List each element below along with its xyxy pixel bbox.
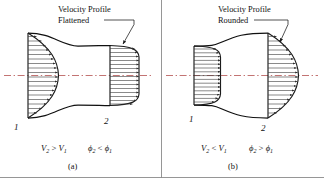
caption-b: (b) <box>228 162 238 171</box>
caption-a: (a) <box>68 162 78 171</box>
rel-p-rhs-sub-b: 1 <box>270 148 273 154</box>
station-label-2-b: 2 <box>261 123 266 133</box>
station-label-1-b: 1 <box>189 114 194 124</box>
svg-text:V2 > V1: V2 > V1 <box>41 143 67 154</box>
annotation-line2-a: Flattened <box>58 16 90 25</box>
velocity-profile-figure: Velocity Profile Flattened 1 2 V2 > V1 ϕ… <box>0 0 324 178</box>
annotation-line1-b: Velocity Profile <box>218 5 271 14</box>
station-label-1-a: 1 <box>14 122 19 132</box>
annotation-line1-a: Velocity Profile <box>58 5 111 14</box>
rel-v-rhs-sub-b: 1 <box>224 148 227 154</box>
svg-text:ϕ2 < ϕ1: ϕ2 < ϕ1 <box>88 143 112 154</box>
relation-velocity-b: V2 < V1 <box>201 143 227 154</box>
station-label-2-a: 2 <box>104 116 109 126</box>
relation-phi-a: ϕ2 < ϕ1 <box>88 143 112 154</box>
relation-velocity-a: V2 > V1 <box>41 143 67 154</box>
rel-p-rhs-sub-a: 1 <box>109 148 112 154</box>
rel-v-rhs-sub-a: 1 <box>64 148 67 154</box>
annotation-line2-b: Rounded <box>218 16 249 25</box>
relation-phi-b: ϕ2 > ϕ1 <box>249 143 273 154</box>
svg-text:ϕ2 > ϕ1: ϕ2 > ϕ1 <box>249 143 273 154</box>
svg-text:V2 < V1: V2 < V1 <box>201 143 227 154</box>
